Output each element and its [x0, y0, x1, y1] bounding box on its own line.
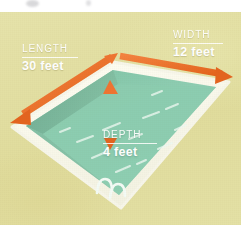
- residue-blob-icon: [26, 0, 39, 7]
- pool-dimensions-illustration: LENGTH 30 feet WIDTH 12 feet DEPTH 4 fee…: [0, 0, 241, 239]
- width-label: WIDTH 12 feet: [173, 30, 223, 59]
- width-value: 12 feet: [173, 46, 223, 59]
- pool-deck-scene: LENGTH 30 feet WIDTH 12 feet DEPTH 4 fee…: [0, 12, 241, 225]
- depth-label: DEPTH 4 feet: [103, 130, 157, 159]
- residue-blob-icon: [86, 0, 91, 6]
- length-caption: LENGTH: [22, 44, 78, 55]
- length-rule: [22, 57, 78, 58]
- cropped-content-above: [0, 0, 241, 12]
- width-caption: WIDTH: [173, 30, 223, 41]
- width-rule: [173, 43, 223, 44]
- length-label: LENGTH 30 feet: [22, 44, 78, 73]
- length-value: 30 feet: [22, 60, 78, 73]
- depth-value: 4 feet: [103, 146, 157, 159]
- depth-rule: [103, 143, 157, 144]
- depth-caption: DEPTH: [103, 130, 157, 141]
